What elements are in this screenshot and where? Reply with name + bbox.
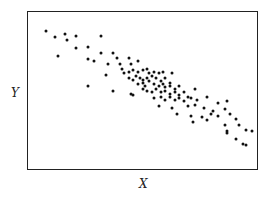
- data-point: [237, 124, 240, 127]
- data-point: [251, 130, 254, 133]
- data-point: [226, 100, 229, 103]
- plot-area: [27, 11, 258, 170]
- data-point: [203, 106, 206, 109]
- data-point: [127, 70, 130, 73]
- data-point: [175, 113, 178, 116]
- data-point: [107, 62, 110, 65]
- data-point: [65, 39, 68, 42]
- data-point: [136, 59, 139, 62]
- data-point: [178, 97, 181, 100]
- data-point: [56, 54, 59, 57]
- data-point: [226, 131, 229, 134]
- data-point: [132, 94, 135, 97]
- data-point: [205, 119, 208, 122]
- data-point: [146, 67, 149, 70]
- data-point: [150, 75, 153, 78]
- data-point: [100, 51, 103, 54]
- data-point: [63, 32, 66, 35]
- data-point: [123, 72, 126, 75]
- data-point: [244, 144, 247, 147]
- data-point: [146, 89, 149, 92]
- data-point: [132, 69, 135, 72]
- data-point: [104, 73, 107, 76]
- data-point: [164, 76, 167, 79]
- data-point: [196, 98, 199, 101]
- data-point: [171, 106, 174, 109]
- data-point: [235, 117, 238, 120]
- data-point: [86, 45, 89, 48]
- data-point: [141, 87, 144, 90]
- data-point: [155, 76, 158, 79]
- data-point: [100, 34, 103, 37]
- data-point: [152, 97, 155, 100]
- data-point: [212, 109, 215, 112]
- data-point: [244, 128, 247, 131]
- data-point: [194, 103, 197, 106]
- data-point: [164, 89, 167, 92]
- data-point: [134, 75, 137, 78]
- data-point: [217, 102, 220, 105]
- data-point: [223, 124, 226, 127]
- y-axis-label: Y: [11, 86, 19, 100]
- data-point: [141, 69, 144, 72]
- data-point: [157, 105, 160, 108]
- data-point: [162, 70, 165, 73]
- data-point: [159, 95, 162, 98]
- data-point: [187, 105, 190, 108]
- data-point: [45, 29, 48, 32]
- data-point: [118, 62, 121, 65]
- data-point: [148, 80, 151, 83]
- data-point: [168, 95, 171, 98]
- data-point: [54, 36, 57, 39]
- data-point: [116, 56, 119, 59]
- data-point: [173, 98, 176, 101]
- data-point: [75, 34, 78, 37]
- data-point: [171, 72, 174, 75]
- data-point: [93, 59, 96, 62]
- data-point: [86, 58, 89, 61]
- data-point: [130, 62, 133, 65]
- data-point: [201, 116, 204, 119]
- data-point: [120, 67, 123, 70]
- data-point: [159, 91, 162, 94]
- x-axis-label: X: [139, 177, 148, 191]
- data-point: [143, 84, 146, 87]
- data-point: [235, 138, 238, 141]
- data-point: [182, 100, 185, 103]
- data-point: [127, 76, 130, 79]
- data-point: [182, 91, 185, 94]
- data-point: [173, 91, 176, 94]
- data-point: [168, 84, 171, 87]
- data-point: [111, 51, 114, 54]
- data-point: [136, 70, 139, 73]
- data-point: [205, 95, 208, 98]
- data-point: [178, 84, 181, 87]
- data-point: [152, 70, 155, 73]
- data-point: [191, 120, 194, 123]
- data-point: [75, 47, 78, 50]
- data-point: [189, 97, 192, 100]
- data-point: [150, 91, 153, 94]
- data-point: [223, 108, 226, 111]
- data-point: [217, 114, 220, 117]
- data-point: [157, 84, 160, 87]
- data-point: [136, 83, 139, 86]
- data-point: [86, 84, 89, 87]
- data-point: [157, 72, 160, 75]
- data-point: [194, 87, 197, 90]
- data-point: [111, 89, 114, 92]
- data-point: [228, 113, 231, 116]
- data-point: [127, 56, 130, 59]
- data-point: [155, 87, 158, 90]
- data-point: [152, 83, 155, 86]
- data-point: [210, 113, 213, 116]
- data-point: [189, 114, 192, 117]
- data-point: [132, 78, 135, 81]
- data-point: [164, 98, 167, 101]
